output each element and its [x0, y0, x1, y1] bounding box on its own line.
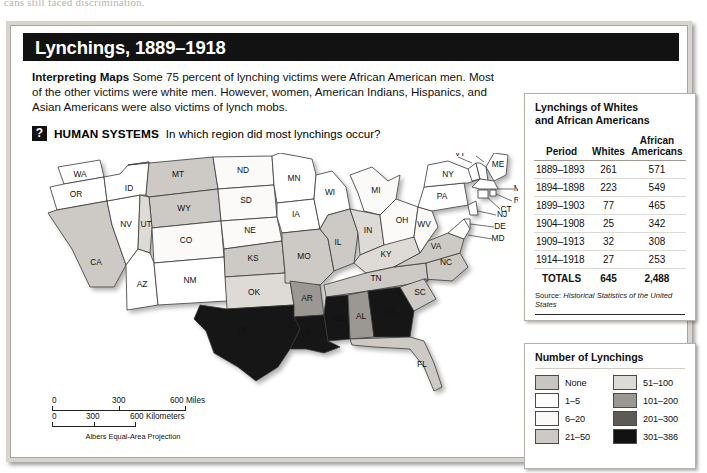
cell-african-americans: 342 — [628, 215, 686, 233]
legend-item: 6–20 — [535, 411, 607, 426]
map-scale-bars: 0 300 600 Miles 0 300 600 Kilometers — [52, 397, 222, 441]
table-row: 1899–190377465 — [534, 197, 686, 215]
cell-period: 1889–1893 — [534, 161, 589, 179]
state-label-ok: OK — [248, 287, 261, 297]
miles-tick-600: 600 Miles — [170, 396, 205, 405]
state-label-or: OR — [70, 189, 83, 199]
state-label-wi: WI — [325, 187, 335, 197]
map-state-nj[interactable] — [468, 201, 478, 215]
state-label-ky: KY — [380, 249, 392, 259]
map-state-tx[interactable] — [194, 305, 300, 381]
cell-african-americans: 308 — [628, 233, 686, 251]
figure-frame: Lynchings, 1889–1918 Interpreting Maps S… — [6, 21, 692, 462]
african-line1: African — [640, 135, 674, 146]
state-label-va: VA — [431, 241, 442, 251]
state-label-oh: OH — [396, 215, 409, 225]
cell-african-americans: 253 — [628, 251, 686, 269]
legend-item: 51–100 — [613, 375, 685, 390]
source-divider — [535, 314, 685, 316]
state-label-vt: VT — [455, 153, 466, 158]
cell-whites: 25 — [589, 215, 628, 233]
cell-totals-whites: 645 — [589, 269, 628, 288]
table-header: Period Whites African Americans — [534, 132, 686, 161]
state-label-sd: SD — [240, 195, 252, 205]
state-label-pa: PA — [437, 191, 448, 201]
cell-totals-label: TOTALS — [534, 269, 589, 288]
legend-item: 201–300 — [613, 411, 685, 426]
km-mark-0 — [52, 422, 53, 427]
table-row: 1894–1898223549 — [534, 179, 686, 197]
legend-swatch — [613, 429, 637, 444]
table-row: 1909–191332308 — [534, 233, 686, 251]
state-label-il: IL — [335, 237, 342, 247]
statistics-title-line2: and African Americans — [535, 114, 685, 127]
state-label-sc: SC — [414, 287, 426, 297]
state-label-ks: KS — [247, 253, 259, 263]
state-label-mn: MN — [287, 173, 300, 183]
legend-item: None — [535, 375, 607, 390]
cell-totals-african-americans: 2,488 — [628, 269, 686, 288]
cell-african-americans: 465 — [628, 197, 686, 215]
table-header-row: Period Whites African Americans — [534, 132, 686, 161]
table-row: 1904–190825342 — [534, 215, 686, 233]
map-area: WAORCANVIDMTWYUTCOAZNMNDSDNEKSOKTXMNIAMO… — [28, 153, 518, 463]
figure-page: cans still faced discrimination. Lynchin… — [0, 0, 707, 473]
state-label-me: ME — [492, 159, 505, 169]
legend-swatch — [535, 375, 559, 390]
legend-swatch — [535, 393, 559, 408]
state-label-ny: NY — [442, 169, 454, 179]
state-label-ia: IA — [292, 209, 300, 219]
legend-label: 101–200 — [643, 396, 678, 406]
legend-swatch — [613, 411, 637, 426]
miles-mark-0 — [52, 406, 53, 411]
cell-african-americans: 549 — [628, 179, 686, 197]
statistics-table-title: Lynchings of Whites and African American… — [525, 94, 695, 127]
map-state-ri[interactable] — [490, 190, 496, 196]
bleed-text-fragment: cans still faced discrimination. — [4, 0, 234, 10]
human-systems-question-text: In which region did most lynchings occur… — [166, 127, 381, 140]
map-projection-label: Albers Equal-Area Projection — [52, 432, 208, 441]
state-label-az: AZ — [137, 279, 148, 289]
cell-whites: 27 — [589, 251, 628, 269]
state-label-la: LA — [300, 327, 311, 337]
cell-period: 1904–1908 — [534, 215, 589, 233]
state-label-ga: GA — [384, 307, 397, 317]
statistics-table-box: Lynchings of Whites and African American… — [524, 93, 696, 321]
miles-tick-300: 300 — [112, 396, 126, 405]
state-label-nv: NV — [120, 219, 132, 229]
legend-title: Number of Lynchings — [525, 344, 695, 364]
cell-whites: 261 — [589, 161, 628, 179]
column-header-period: Period — [534, 132, 589, 161]
state-label-ne: NE — [244, 225, 256, 235]
state-label-mt: MT — [172, 169, 184, 179]
legend-item: 301–386 — [613, 429, 685, 444]
cell-whites: 77 — [589, 197, 628, 215]
question-mark-icon: ? — [32, 126, 47, 141]
km-mark-mid — [94, 422, 95, 427]
legend-swatch — [535, 411, 559, 426]
state-label-ar: AR — [301, 293, 313, 303]
miles-mark-mid — [119, 406, 120, 411]
legend-label: 201–300 — [643, 414, 678, 424]
united-states-map: WAORCANVIDMTWYUTCOAZNMNDSDNEKSOKTXMNIAMO… — [28, 153, 518, 403]
map-legend-box: Number of Lynchings None51–1001–5101–200… — [524, 343, 696, 469]
legend-item: 21–50 — [535, 429, 607, 444]
statistics-table: Period Whites African Americans 1889–189… — [534, 132, 686, 287]
state-label-wa: WA — [73, 169, 87, 179]
state-label-nh: NH — [472, 153, 484, 155]
legend-label: 6–20 — [565, 414, 585, 424]
legend-label: 1–5 — [565, 396, 580, 406]
source-label: Source: — [535, 291, 561, 300]
map-state-fl[interactable] — [350, 337, 442, 391]
state-label-in: IN — [364, 225, 372, 235]
legend-swatch — [613, 393, 637, 408]
state-label-ma: MA — [514, 183, 518, 193]
map-state-ct[interactable] — [478, 190, 488, 198]
km-tick-0: 0 — [52, 412, 57, 421]
state-label-wy: WY — [177, 203, 191, 213]
table-row-totals: TOTALS6452,488 — [534, 269, 686, 288]
cell-whites: 223 — [589, 179, 628, 197]
state-label-nc: NC — [440, 257, 452, 267]
figure-title: Lynchings, 1889–1918 — [35, 37, 226, 59]
legend-label: 51–100 — [643, 378, 673, 388]
